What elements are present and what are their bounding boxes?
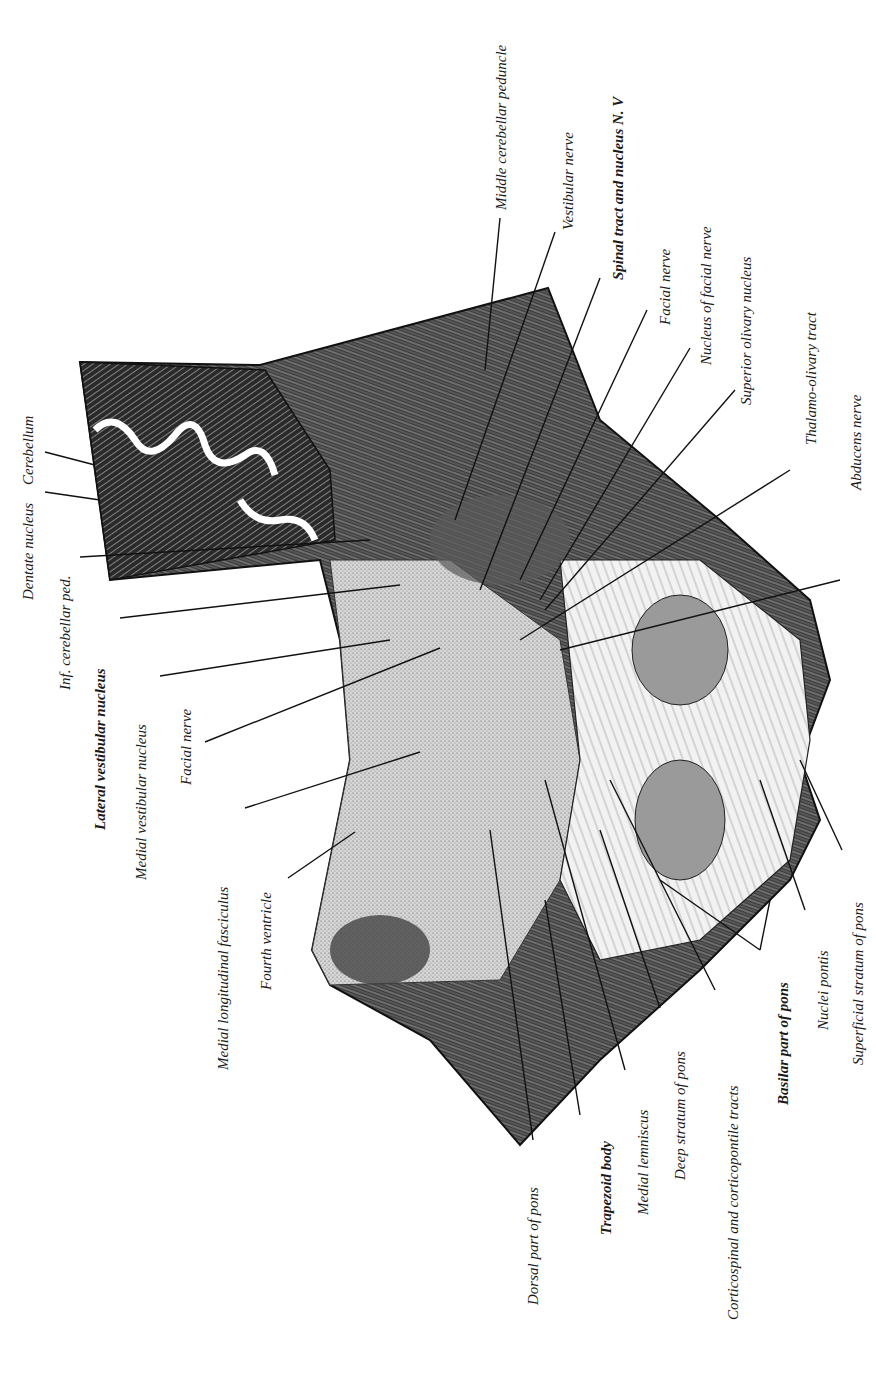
label-nuclei-pontis: Nuclei pontis — [815, 950, 832, 1030]
label-lateral-vestibular-nucleus: Lateral vestibular nucleus — [92, 668, 109, 830]
label-fourth-ventricle: Fourth ventricle — [258, 892, 275, 990]
label-basilar-part-of-pons: Basilar part of pons — [775, 982, 792, 1105]
label-thalamo-olivary-tract: Thalamo-olivary tract — [803, 312, 820, 445]
label-medial-lemniscus: Medial lemniscus — [635, 1110, 652, 1215]
label-superficial-stratum-of-pons: Superficial stratum of pons — [850, 902, 867, 1065]
label-cerebellum: Cerebellum — [20, 416, 37, 485]
label-spinal-tract-nv: Spinal tract and nucleus N. V — [610, 97, 627, 280]
label-middle-cerebellar-peduncle: Middle cerebellar peduncle — [493, 45, 510, 210]
label-abducens-nerve: Abducens nerve — [848, 395, 865, 490]
label-deep-stratum-of-pons: Deep stratum of pons — [672, 1051, 689, 1180]
label-dorsal-part-of-pons: Dorsal part of pons — [525, 1187, 542, 1305]
label-inf-cerebellar-ped: Inf. cerebellar ped. — [57, 576, 74, 690]
label-nucleus-of-facial-nerve: Nucleus of facial nerve — [698, 226, 715, 365]
label-facial-nerve-left: Facial nerve — [178, 709, 195, 785]
pons-section-illustration — [0, 0, 876, 1384]
label-facial-nerve-right: Facial nerve — [657, 249, 674, 325]
label-trapezoid-body: Trapezoid body — [598, 1141, 615, 1235]
label-vestibular-nerve: Vestibular nerve — [560, 132, 577, 230]
label-medial-vestibular-nucleus: Medial vestibular nucleus — [133, 724, 150, 880]
label-superior-olivary-nucleus: Superior olivary nucleus — [738, 257, 755, 405]
label-medial-longitudinal-fasciculus: Medial longitudinal fasciculus — [215, 887, 232, 1070]
label-corticospinal-tracts: Corticospinal and corticopontile tracts — [725, 1085, 742, 1320]
label-dentate-nucleus: Dentate nucleus — [20, 503, 37, 600]
